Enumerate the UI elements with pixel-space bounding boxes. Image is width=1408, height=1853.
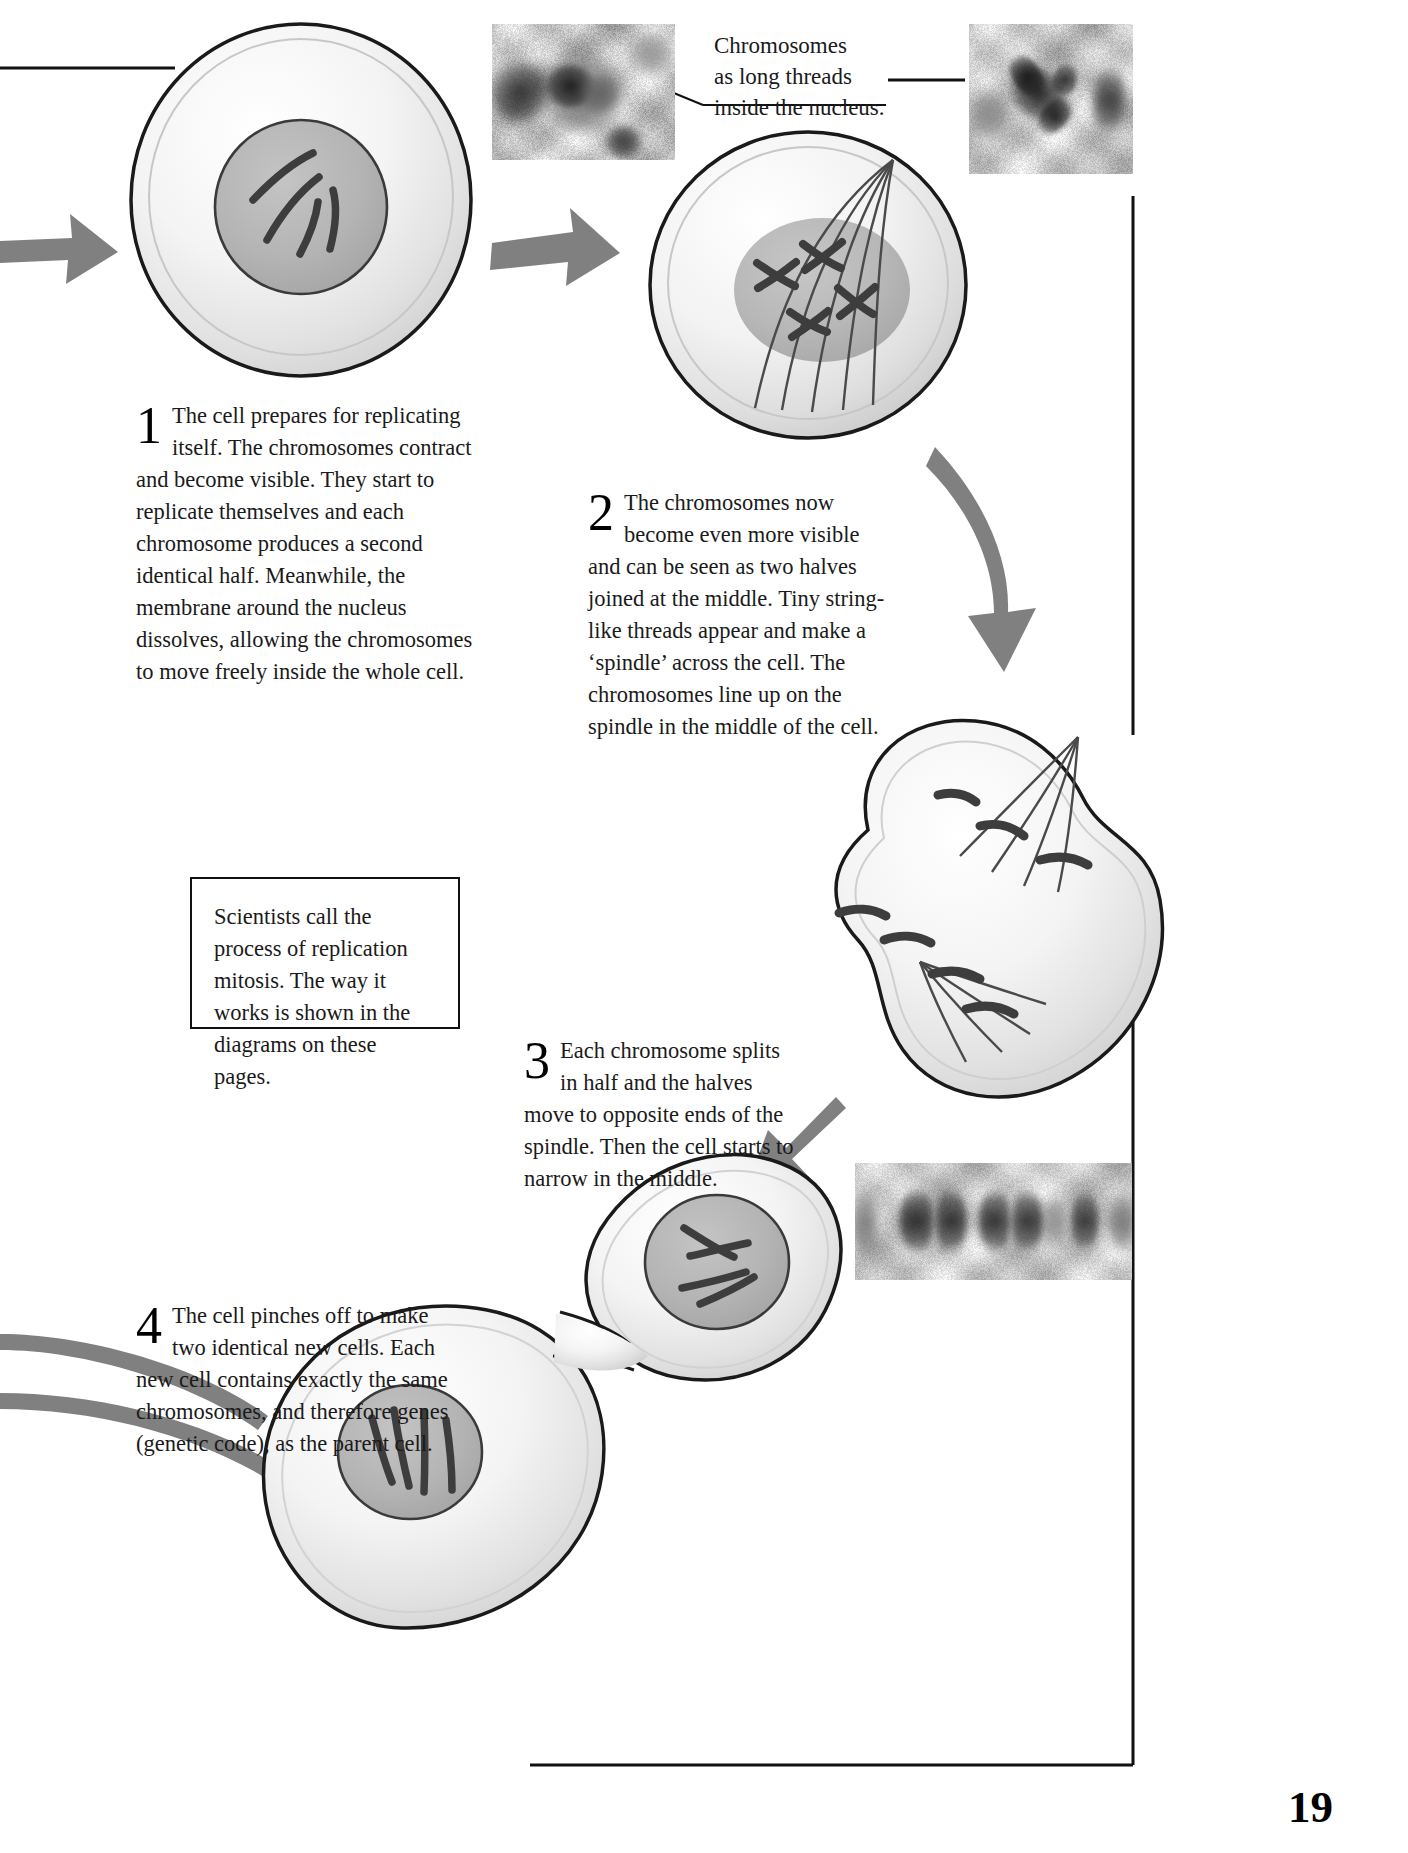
cell-stage-3	[836, 720, 1162, 1097]
chromosome-halves-3	[839, 793, 1088, 1014]
cell-stage-1	[131, 24, 471, 376]
step-2-body: The chromosomes now become even more vis…	[588, 487, 888, 743]
step-4-number: 4	[136, 1304, 162, 1348]
callout-line-1: Chromosomes	[714, 30, 914, 61]
mitosis-note-box: Scientists call the process of replicati…	[190, 877, 460, 1029]
step-4-text: 4 The cell pinches off to make two ident…	[136, 1300, 461, 1460]
spindle-fibres-3-bottom	[920, 962, 1046, 1062]
page-number: 19	[1288, 1781, 1333, 1833]
cell-stage-2	[650, 132, 966, 438]
step-1-text: 1 The cell prepares for replicating itse…	[136, 400, 488, 688]
step-2-number: 2	[588, 491, 614, 535]
chromosome-threads-callout: Chromosomes as long threads inside the n…	[714, 30, 914, 123]
step-2-text: 2 The chromosomes now become even more v…	[588, 487, 888, 743]
callout-line-3: inside the nucleus.	[714, 92, 914, 123]
diagram-page: Chromosomes as long threads inside the n…	[0, 0, 1408, 1853]
micrograph-prophase	[969, 24, 1133, 174]
chromosome-pairs-2	[757, 242, 875, 337]
chromosome-threads-1	[253, 153, 335, 254]
spindle-fibres-3-top	[960, 737, 1078, 892]
step-1-number: 1	[136, 404, 162, 448]
arrow-1-2	[490, 208, 620, 286]
spindle-fibres-2	[755, 160, 893, 412]
arrow-in	[0, 214, 118, 284]
arrow-2-3	[926, 447, 1036, 672]
micrograph-telophase	[855, 1163, 1132, 1280]
page-rules	[0, 68, 1133, 1765]
callout-line-2: as long threads	[714, 61, 914, 92]
step-3-number: 3	[524, 1039, 550, 1083]
micrograph-interphase	[492, 24, 675, 160]
step-3-body: Each chromosome splits in half and the h…	[524, 1035, 794, 1195]
step-1-body: The cell prepares for replicating itself…	[136, 400, 488, 688]
mitosis-note-text: Scientists call the process of replicati…	[214, 904, 410, 1089]
step-4-body: The cell pinches off to make two identic…	[136, 1300, 461, 1460]
step-3-text: 3 Each chromosome splits in half and the…	[524, 1035, 794, 1195]
chromosome-threads-4a	[682, 1228, 754, 1304]
